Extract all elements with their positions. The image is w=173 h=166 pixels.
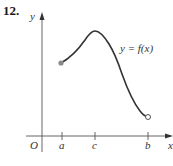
curve-label: y = f(x) [119, 42, 153, 55]
x-axis-arrow-icon [165, 134, 173, 139]
tick-label-b: b [145, 139, 151, 151]
origin-label: O [30, 139, 38, 151]
tick-label-c: c [92, 139, 97, 151]
y-axis-arrow-icon [40, 12, 45, 20]
x-axis-label: x [167, 139, 173, 151]
y-axis-label: y [29, 10, 35, 22]
function-graph: y x O a c b y = f(x) [0, 0, 173, 166]
tick-label-a: a [59, 139, 65, 151]
open-endpoint-circle [146, 115, 151, 120]
closed-endpoint-dot [58, 60, 63, 65]
